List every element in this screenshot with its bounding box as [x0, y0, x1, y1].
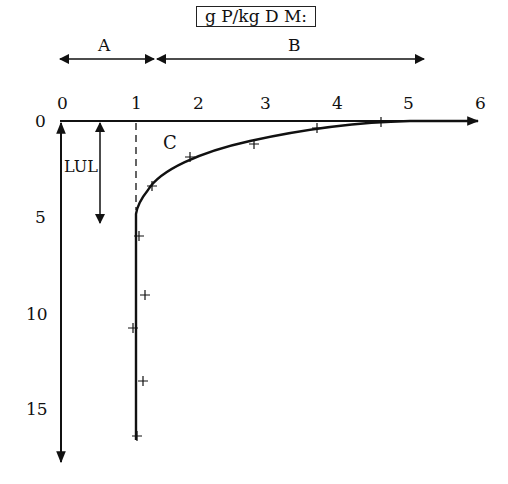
- chart-canvas: [0, 0, 508, 484]
- fitted-curve: [136, 121, 478, 440]
- data-markers: [128, 117, 386, 441]
